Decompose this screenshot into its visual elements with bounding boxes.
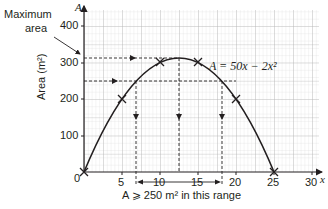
y-axis-symbol: A bbox=[75, 2, 82, 13]
annotation-arrow bbox=[54, 37, 80, 54]
y-tick: 300 bbox=[60, 57, 78, 68]
range-note: A ⩾ 250 m² in this range bbox=[122, 190, 241, 201]
x-tick: 10 bbox=[153, 177, 165, 188]
y-tick: 400 bbox=[60, 20, 78, 31]
equation-label: A = 50x − 2x² bbox=[209, 60, 277, 72]
grid bbox=[84, 10, 319, 172]
annotation-line1: Maximum bbox=[4, 9, 52, 20]
x-tick: 20 bbox=[229, 177, 241, 188]
y-tick: 100 bbox=[60, 130, 78, 141]
y-tick: 200 bbox=[60, 93, 78, 104]
x-origin: 0 bbox=[74, 173, 80, 184]
x-tick: 15 bbox=[191, 177, 203, 188]
annotation-line2: area bbox=[25, 23, 47, 34]
x-tick: 30 bbox=[305, 177, 317, 188]
x-tick: 5 bbox=[118, 177, 124, 188]
x-axis-symbol: x bbox=[320, 174, 325, 185]
x-tick: 25 bbox=[267, 177, 279, 188]
y-axis-label: Area (m²) bbox=[36, 54, 47, 100]
